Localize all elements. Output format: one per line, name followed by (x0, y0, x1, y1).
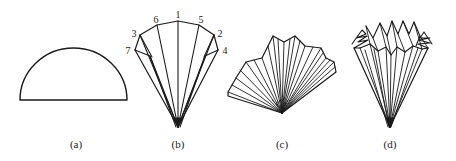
point-label-7: 7 (126, 45, 131, 56)
point-label-4: 4 (223, 45, 228, 56)
figure-stage: 1 6 5 3 2 7 4 (a) (b) (c) (d) (0, 0, 456, 161)
caption-b: (b) (172, 138, 185, 150)
panel-c-fan (228, 36, 336, 113)
caption-d: (d) (384, 138, 397, 150)
point-label-5: 5 (199, 14, 204, 25)
caption-a: (a) (70, 138, 82, 150)
point-label-2: 2 (218, 28, 223, 39)
panel-b-cone (135, 21, 218, 127)
panel-a-semicircle (20, 48, 127, 100)
panel-d-cup (352, 21, 432, 128)
diagram-canvas (0, 0, 456, 161)
point-label-1: 1 (176, 9, 181, 20)
point-label-6: 6 (154, 14, 159, 25)
caption-c: (c) (276, 138, 288, 150)
point-label-3: 3 (132, 28, 137, 39)
